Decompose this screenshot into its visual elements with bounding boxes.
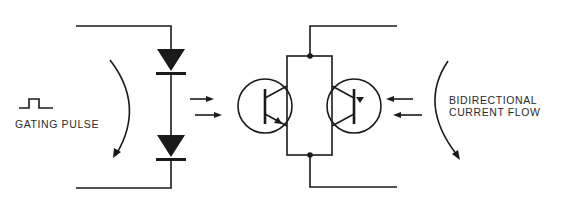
emitter-arrow-2 <box>356 97 364 103</box>
top-node <box>307 53 313 59</box>
current-flow-label: CURRENT FLOW <box>449 106 541 118</box>
gating-pulse-label: GATING PULSE <box>15 118 99 130</box>
right-bottom-wire <box>310 155 397 187</box>
emitter-arrow-1 <box>274 117 282 124</box>
pulse-waveform-icon <box>19 99 53 108</box>
right-top-wire <box>310 26 397 56</box>
left-bottom-wire <box>76 160 171 188</box>
bidirectional-label: BIDIRECTIONAL <box>449 94 537 106</box>
transistor-2-icon <box>327 79 381 133</box>
transistor-1-icon <box>238 79 292 133</box>
bottom-node <box>307 152 313 158</box>
left-curved-arrow <box>110 60 129 153</box>
transistor-bus <box>287 56 332 155</box>
diode-1-icon <box>156 49 186 75</box>
left-top-wire <box>76 26 171 49</box>
right-arrowhead <box>452 150 460 160</box>
diode-2-icon <box>156 135 186 161</box>
